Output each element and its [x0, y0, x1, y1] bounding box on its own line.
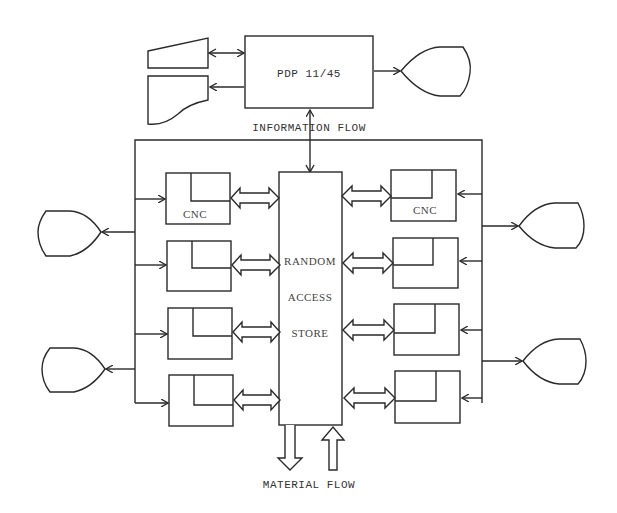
random-access-store: RANDOM ACCESS STORE: [279, 172, 342, 425]
double-arrow-right-4-icon: [344, 388, 395, 408]
cnc-machine-right-1: CNC: [391, 170, 456, 221]
cnc-machine-left-1: CNC: [166, 173, 230, 224]
machine-box: [393, 238, 458, 288]
double-arrow-right-1-icon: [342, 186, 391, 206]
machine-box: [394, 304, 459, 355]
double-arrow-left-1-icon: [231, 188, 279, 208]
machine-box: [395, 371, 460, 423]
double-arrow-left-3-icon: [233, 322, 280, 342]
cnc-machine-right-4: [395, 371, 460, 423]
double-arrow-right-3-icon: [343, 320, 394, 340]
machine-box: [169, 375, 233, 426]
material-flow-arrows: MATERIAL FLOW: [263, 425, 355, 491]
material-flow-label: MATERIAL FLOW: [263, 479, 355, 491]
machine-label: CNC: [413, 204, 437, 216]
double-arrow-right-2-icon: [343, 253, 393, 273]
machine-label: CNC: [183, 208, 207, 220]
display-terminal-left-2-icon: [42, 348, 105, 392]
computer-block: PDP 11/45: [245, 36, 373, 108]
cnc-machine-left-3: [168, 308, 232, 359]
store-label-line2: ACCESS: [288, 291, 333, 303]
computer-label: PDP 11/45: [277, 68, 341, 80]
display-terminal-right-2-icon: [523, 339, 586, 384]
material-in-arrow-icon: [322, 427, 344, 470]
material-out-arrow-icon: [278, 425, 302, 470]
machine-box: [167, 241, 231, 291]
display-terminal-right-1-icon: [519, 203, 584, 248]
display-terminal-left-1-icon: [38, 211, 101, 256]
keyboard-device-icon: [148, 38, 208, 68]
cnc-machine-left-4: [169, 375, 233, 426]
cnc-machine-right-2: [393, 238, 458, 288]
information-flow-label: INFORMATION FLOW: [252, 122, 366, 134]
flow-diagram: PDP 11/45 INFORMATION FLOW RANDOM ACCESS…: [0, 0, 617, 513]
right-machines: CNC: [391, 170, 586, 423]
card-reader-device-icon: [148, 76, 208, 124]
store-label-line1: RANDOM: [284, 255, 336, 267]
store-label-line3: STORE: [291, 327, 328, 339]
cnc-machine-left-2: [167, 241, 231, 291]
machine-box: [168, 308, 232, 359]
display-terminal-top-icon: [401, 47, 470, 96]
cnc-machine-right-3: [394, 304, 459, 355]
double-arrow-left-2-icon: [232, 255, 280, 275]
double-arrow-left-4-icon: [234, 390, 280, 410]
